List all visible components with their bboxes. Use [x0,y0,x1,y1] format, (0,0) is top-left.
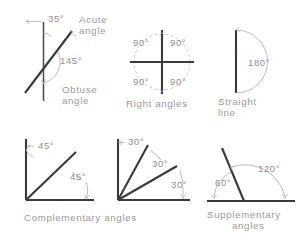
panel-straight-line: 180° Straight line [218,28,270,118]
label-acute-line2: angle [79,25,106,36]
caption-straight-line1: Straight [218,96,257,107]
diagram-canvas: 35° Acute angle 145° Obtuse angle 90° 90… [0,0,304,242]
arc-35 [44,33,52,37]
caption-right-angles: Right angles [126,98,188,109]
angle-diagram-figure: 35° Acute angle 145° Obtuse angle 90° 90… [0,0,304,242]
label-30-a: 30° [128,136,144,147]
comp-diagonal-line [26,152,76,200]
label-obtuse-line1: Obtuse [62,84,97,95]
label-obtuse-line2: angle [62,95,89,106]
panel-supplementary: 60° 120° Supplementary angles [207,148,295,231]
label-180-degrees: 180° [248,57,270,68]
label-30-c: 30° [171,179,187,190]
label-30-b: 30° [152,158,168,169]
label-90-bottom-left: 90° [133,76,149,87]
supp-slanted-ray [222,148,244,201]
label-45-top: 45° [38,140,54,151]
panel-right-angles: 90° 90° 90° 90° Right angles [126,30,194,109]
caption-supplementary-line2: angles [232,220,264,231]
panel-complementary-thirds: 30° 30° 30° [118,136,190,200]
label-120-degrees: 120° [258,163,280,174]
caption-supplementary-line1: Supplementary [207,209,281,220]
label-60-degrees: 60° [215,177,231,188]
label-145-degrees: 145° [60,55,82,66]
label-35-degrees: 35° [48,13,64,24]
label-90-top-left: 90° [133,37,149,48]
label-acute-line1: Acute [79,14,107,25]
panel-acute-obtuse: 35° Acute angle 145° Obtuse angle [25,13,107,106]
panel-complementary: 45° 45° Complementary angles [24,139,137,223]
label-90-top-right: 90° [170,37,186,48]
caption-complementary: Complementary angles [24,212,137,223]
label-90-bottom-right: 90° [170,76,186,87]
comp-arc-top [26,149,34,157]
caption-straight-line2: line [218,107,236,118]
label-45-bottom: 45° [70,171,86,182]
comp-arc-bottom [86,182,88,198]
